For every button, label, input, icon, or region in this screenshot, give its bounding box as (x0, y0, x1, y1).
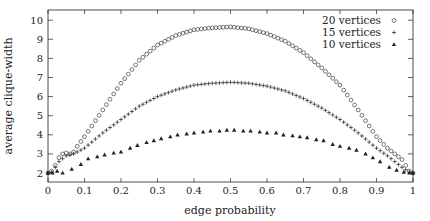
x-tick-label: 0.1 (77, 185, 93, 196)
y-tick-label: 4 (37, 129, 43, 140)
legend-label-20: 20 vertices (322, 14, 381, 26)
y-axis-label: average clique-width (2, 37, 15, 154)
y-tick-label: 9 (37, 34, 43, 45)
x-tick-label: 0.8 (332, 185, 348, 196)
series-10-vertices (46, 128, 415, 175)
y-tick-label: 10 (30, 15, 43, 26)
x-tick-label: 0.9 (369, 185, 385, 196)
x-tick-label: 0.6 (259, 185, 275, 196)
y-tick-label: 2 (37, 168, 43, 179)
y-tick-label: 8 (37, 53, 43, 64)
x-axis-label: edge probability (184, 204, 276, 217)
y-tick-label: 5 (37, 110, 43, 121)
y-tick-label: 7 (37, 72, 43, 83)
x-tick-label: 0 (45, 185, 51, 196)
y-tick-label: 3 (37, 148, 43, 159)
x-tick-label: 0.7 (296, 185, 312, 196)
x-tick-label: 0.3 (150, 185, 166, 196)
y-tick-label: 6 (37, 91, 43, 102)
legend-label-10: 10 vertices (322, 38, 381, 50)
x-tick-label: 0.4 (186, 185, 202, 196)
legend-label-15: 15 vertices (322, 26, 381, 38)
legend: 20 vertices 15 vertices 10 vertices (322, 14, 396, 50)
scatter-chart: 00.10.20.30.40.50.60.70.80.91 2345678910… (0, 0, 430, 221)
x-tick-label: 0.2 (113, 185, 129, 196)
x-tick-label: 1 (410, 185, 416, 196)
series-15-vertices (46, 80, 415, 175)
x-tick-label: 0.5 (223, 185, 239, 196)
